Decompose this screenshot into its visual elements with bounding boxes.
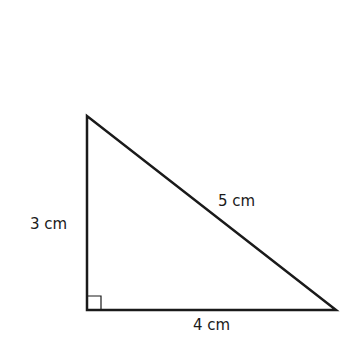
right-angle-marker: [87, 296, 101, 310]
triangle-outline: [87, 116, 336, 310]
base-label: 4 cm: [193, 318, 230, 333]
right-triangle-diagram: [0, 0, 360, 361]
hypotenuse-label: 5 cm: [218, 194, 255, 209]
height-label: 3 cm: [30, 217, 67, 232]
